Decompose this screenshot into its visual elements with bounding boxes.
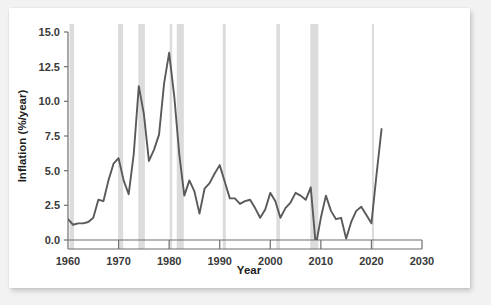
x-tick-label: 2020 (359, 255, 383, 267)
y-axis-title: Inflation (%/year) (16, 90, 28, 183)
y-tick-label: 5.0 (45, 165, 60, 177)
x-tick-label: 2030 (410, 255, 434, 267)
recession-band (223, 24, 226, 249)
recession-band (70, 24, 75, 249)
recession-band (310, 24, 318, 249)
recession-band (138, 24, 145, 249)
y-tick-label: 0.0 (45, 234, 60, 246)
x-tick-label: 1980 (157, 255, 181, 267)
x-tick-label: 2010 (309, 255, 333, 267)
y-tick-label: 12.5 (39, 61, 60, 73)
x-tick-label: 1970 (106, 255, 130, 267)
x-tick-label: 2000 (258, 255, 282, 267)
inflation-line-chart: 0.02.55.07.510.012.515.0 196019701980199… (9, 8, 470, 288)
screenshot-root: 0.02.55.07.510.012.515.0 196019701980199… (0, 0, 491, 305)
chart-background (9, 8, 470, 288)
recession-band (118, 24, 123, 249)
x-axis-title: Year (237, 264, 262, 276)
y-tick-label: 10.0 (39, 95, 60, 107)
y-tick-label: 15.0 (39, 26, 60, 38)
x-tick-label: 1990 (207, 255, 231, 267)
y-tick-label: 7.5 (45, 130, 60, 142)
y-tick-label: 2.5 (45, 199, 60, 211)
inflation-chart-figure: 0.02.55.07.510.012.515.0 196019701980199… (9, 8, 470, 288)
chart-card: 0.02.55.07.510.012.515.0 196019701980199… (9, 8, 470, 288)
x-tick-label: 1960 (56, 255, 80, 267)
